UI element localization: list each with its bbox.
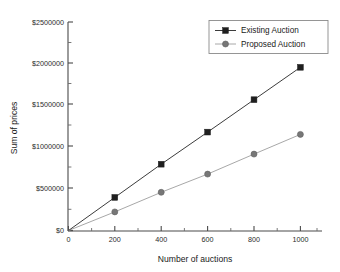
series-line-proposed-auction [68,134,300,230]
y-tick-label-3: $1500000 [32,100,64,109]
chart-legend[interactable]: Existing Auction Proposed Auction [209,21,328,54]
y-tick-label-4: $2000000 [32,59,64,68]
x-tick-label-0: 0 [66,235,70,244]
y-axis-title: Sum of prices [9,102,19,155]
x-tick-label-4: 800 [248,235,260,244]
y-tick-label-5: $2500000 [32,18,64,27]
legend-label-proposed-auction: Proposed Auction [241,40,306,49]
series-markers-proposed-auction [112,131,304,215]
y-tick-label-2: $1000000 [32,142,64,151]
x-tick-label-3: 600 [202,235,214,244]
y-tick-label-0: $0 [56,226,64,235]
legend-marker-proposed [223,41,229,47]
y-tick-label-1: $500000 [36,184,64,193]
legend-marker-existing [223,28,229,34]
x-axis-title: Number of auctions [158,254,233,264]
chart-figure: $0 $500000 $1000000 $1500000 $2000000 $2… [0,0,340,272]
x-tick-label-2: 400 [155,235,167,244]
x-tick-label-5: 1000 [292,235,308,244]
y-axis-major-ticks [68,22,73,231]
chart-canvas: $0 $500000 $1000000 $1500000 $2000000 $2… [0,0,340,272]
legend-label-existing-auction: Existing Auction [241,26,299,35]
x-tick-label-1: 200 [109,235,121,244]
